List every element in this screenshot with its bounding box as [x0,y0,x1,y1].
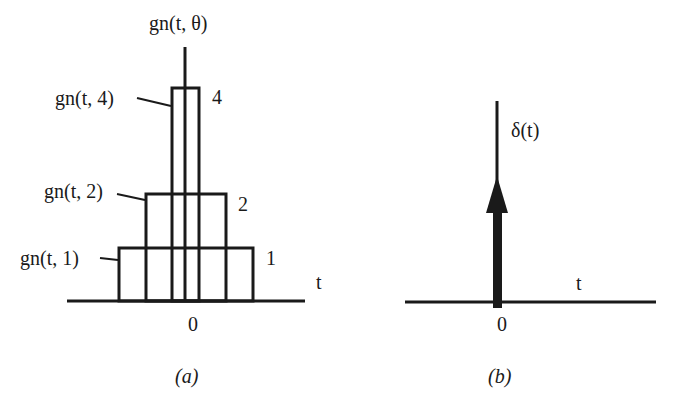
panel-a-origin-label: 0 [188,313,198,335]
panel-b-caption: (b) [488,365,512,388]
panel-b-y-axis-label: δ(t) [511,119,539,142]
panel-b-origin-label: 0 [497,313,507,335]
delta-arrow-shaft [493,210,502,308]
leader-gn-t-1 [100,258,118,260]
panel-a-t-label: t [316,271,322,293]
figure: gn(t, θ) gn(t, 4) gn(t, 2) gn(t, 1) 4 2 … [0,0,677,410]
leader-gn-t-2 [117,194,145,200]
panel-b-t-label: t [576,272,582,294]
label-gn-t-2: gn(t, 2) [44,180,103,203]
label-gn-t-1: gn(t, 1) [20,247,79,270]
height-label-1: 1 [266,247,276,269]
height-label-4: 4 [212,86,222,108]
height-label-2: 2 [238,193,248,215]
panel-a-caption: (a) [175,365,199,388]
delta-arrow-head [486,176,508,213]
label-gn-t-4: gn(t, 4) [55,87,114,110]
leader-gn-t-4 [137,98,171,106]
panel-a-y-axis-label: gn(t, θ) [149,12,207,35]
